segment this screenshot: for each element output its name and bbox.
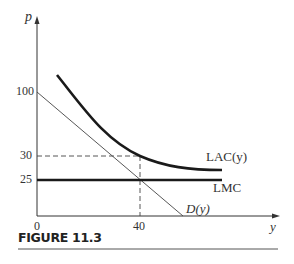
tick-label-100: 100 bbox=[16, 84, 34, 99]
demand-curve bbox=[37, 92, 183, 216]
chart-canvas bbox=[0, 0, 294, 264]
figure-caption: FIGURE 11.3 bbox=[18, 230, 102, 245]
x-axis-label: y bbox=[270, 219, 276, 235]
tick-label-30: 30 bbox=[20, 148, 32, 163]
demand-label: D(y) bbox=[186, 201, 210, 217]
lmc-label: LMC bbox=[213, 180, 241, 196]
lac-label: LAC(y) bbox=[206, 149, 247, 165]
x-axis-arrow-icon bbox=[272, 214, 280, 219]
tick-label-40: 40 bbox=[133, 219, 145, 234]
tick-label-25: 25 bbox=[20, 172, 32, 187]
y-axis-label: p bbox=[25, 9, 32, 25]
y-axis-arrow-icon bbox=[35, 16, 40, 24]
